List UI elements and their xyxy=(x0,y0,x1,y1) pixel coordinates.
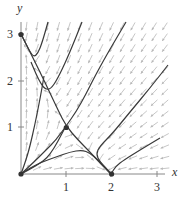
trajectory-curve xyxy=(31,22,82,89)
x-tick-label-3: 3 xyxy=(154,181,160,193)
field-arrow-head xyxy=(25,77,28,80)
y-axis-label: y xyxy=(17,2,22,14)
field-arrow-head xyxy=(25,131,28,134)
field-arrow-head xyxy=(25,55,28,58)
y-tick-label-2: 2 xyxy=(7,75,13,87)
field-arrow-head xyxy=(92,167,95,170)
x-tick-label-2: 2 xyxy=(108,181,114,193)
field-arrow-head xyxy=(25,87,28,90)
y-tick-label-3: 3 xyxy=(7,28,13,40)
y-tick-label-1: 1 xyxy=(7,121,13,133)
field-arrow-head xyxy=(36,98,39,101)
trajectory-curve xyxy=(21,22,48,56)
field-arrow-head xyxy=(47,109,50,112)
x-tick-label-1: 1 xyxy=(63,181,69,193)
field-arrow-head xyxy=(36,87,39,90)
phase-portrait xyxy=(0,0,187,199)
field-arrow-head xyxy=(25,66,28,69)
trajectory-curve xyxy=(21,76,44,174)
equilibrium-point xyxy=(109,171,114,176)
field-arrow-head xyxy=(82,156,85,159)
field-arrow-head xyxy=(25,98,28,101)
field-arrow-head xyxy=(25,109,28,112)
field-arrow-head xyxy=(82,167,85,170)
field-arrow-head xyxy=(25,120,28,123)
equilibrium-point xyxy=(18,171,23,176)
x-axis-label: x xyxy=(172,166,177,178)
equilibrium-point xyxy=(18,32,23,37)
equilibrium-point xyxy=(64,125,69,130)
field-arrow-head xyxy=(160,167,163,170)
